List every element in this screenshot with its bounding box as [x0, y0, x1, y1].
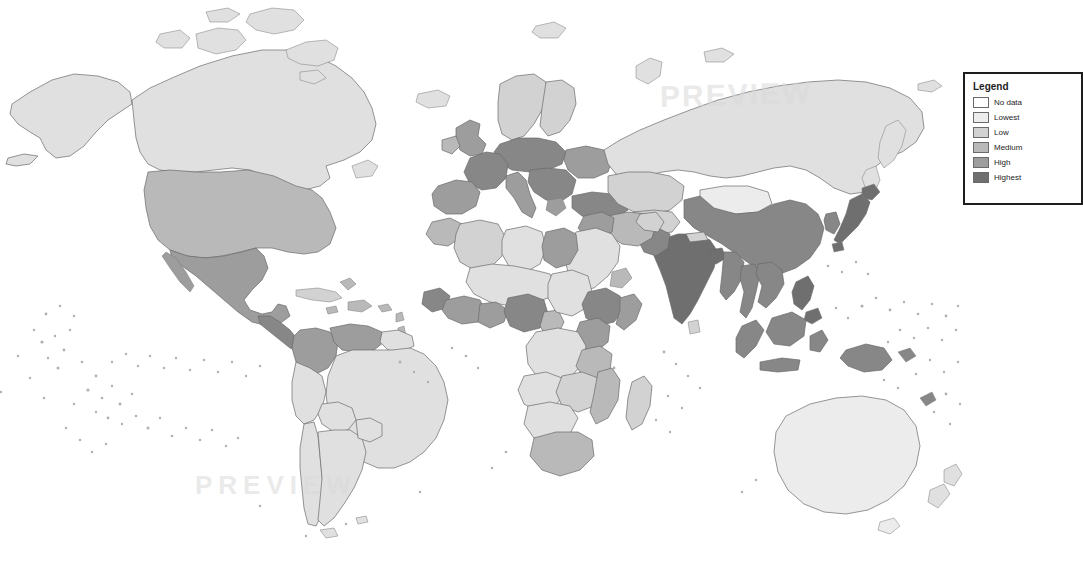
- legend-label: High: [994, 158, 1010, 167]
- legend-swatch: [973, 112, 989, 123]
- region-sri-lanka: [688, 320, 700, 334]
- region-kyushu: [832, 242, 844, 252]
- legend-swatch: [973, 142, 989, 153]
- legend-label: Low: [994, 128, 1009, 137]
- legend-entry[interactable]: Medium: [973, 142, 1073, 153]
- legend-label: Highest: [994, 173, 1021, 182]
- legend-entry-list: No dataLowestLowMediumHighHighest: [973, 97, 1073, 183]
- legend-swatch: [973, 127, 989, 138]
- legend-swatch: [973, 172, 989, 183]
- legend-label: Medium: [994, 143, 1022, 152]
- legend-label: Lowest: [994, 113, 1019, 122]
- legend-title: Legend: [973, 81, 1073, 92]
- legend-swatch: [973, 157, 989, 168]
- legend-entry[interactable]: Highest: [973, 172, 1073, 183]
- legend-entry[interactable]: Low: [973, 127, 1073, 138]
- legend-entry[interactable]: No data: [973, 97, 1073, 108]
- legend-entry[interactable]: High: [973, 157, 1073, 168]
- legend-label: No data: [994, 98, 1022, 107]
- legend-swatch: [973, 97, 989, 108]
- region-nepal: [686, 232, 708, 242]
- map-legend[interactable]: Legend No dataLowestLowMediumHighHighest: [963, 72, 1083, 205]
- legend-entry[interactable]: Lowest: [973, 112, 1073, 123]
